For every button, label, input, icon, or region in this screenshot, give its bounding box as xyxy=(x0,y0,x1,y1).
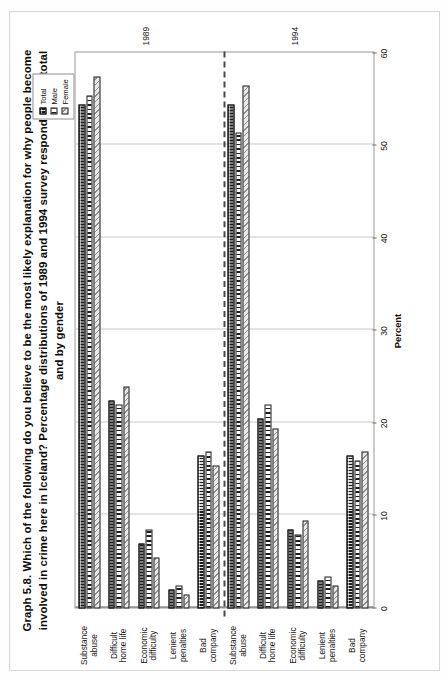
axis-title-percent: Percent xyxy=(391,53,402,608)
category-label-line1: Economic xyxy=(288,612,298,670)
figure-sheet: Graph 5.8. Which of the following do you… xyxy=(9,11,440,671)
legend-label: Male xyxy=(49,88,58,104)
bar-total xyxy=(108,400,115,608)
category-label-line2: abuse xyxy=(238,612,248,670)
category-label-line1: Difficult xyxy=(258,612,268,670)
tick-mark-20 xyxy=(372,422,376,423)
tick-mark-30 xyxy=(372,330,376,331)
tick-mark-50 xyxy=(372,145,376,146)
rotation-wrapper: Graph 5.8. Which of the following do you… xyxy=(10,12,439,670)
category-label-line1: Substance xyxy=(228,612,238,670)
category-label-line2: difficulty xyxy=(149,612,159,670)
legend-swatch-icon xyxy=(61,107,68,114)
chart-figure: Graph 5.8. Which of the following do you… xyxy=(10,12,439,670)
bar-total xyxy=(346,455,353,608)
category-label-line2: penalties xyxy=(178,612,188,670)
category-label: Lenientpenalties xyxy=(169,612,189,670)
category-label-line1: Bad xyxy=(198,612,208,670)
period-label-1989: 1989 xyxy=(140,26,150,45)
bar-male xyxy=(115,405,122,609)
category-label-line2: abuse xyxy=(89,612,99,670)
bar-total xyxy=(257,418,264,608)
bar-total xyxy=(168,590,175,609)
bar-total xyxy=(138,543,145,608)
legend-item[interactable]: Total xyxy=(37,79,47,114)
bar-total xyxy=(287,529,294,608)
axis-tick-label: 0 xyxy=(378,606,388,611)
category-label: Badcompany xyxy=(347,612,367,670)
category-label: Substanceabuse xyxy=(79,612,99,670)
category-label-line2: penalties xyxy=(327,612,337,670)
legend-swatch-icon xyxy=(50,107,57,114)
category-label-line1: Economic xyxy=(139,612,149,670)
bar-total xyxy=(317,580,324,608)
axis-tick-label: 30 xyxy=(378,326,388,336)
bar-female xyxy=(183,594,190,608)
legend-label: Total xyxy=(38,88,47,104)
category-label: Badcompany xyxy=(198,612,218,670)
bar-female xyxy=(153,557,160,608)
axis-tick-label: 50 xyxy=(378,141,388,151)
chart-legend: TotalMaleFemale xyxy=(32,73,74,119)
axis-tick-label: 40 xyxy=(378,233,388,243)
bar-total xyxy=(227,104,234,608)
category-label: Difficulthome life xyxy=(258,612,278,670)
category-label: Substanceabuse xyxy=(228,612,248,670)
bar-male xyxy=(145,529,152,608)
bar-female xyxy=(361,451,368,608)
category-label-line1: Bad xyxy=(347,612,357,670)
category-label-line1: Difficult xyxy=(109,612,119,670)
bar-female xyxy=(302,520,309,608)
category-label-line2: company xyxy=(357,612,367,670)
category-label-line1: Lenient xyxy=(169,612,179,670)
category-label: Lenientpenalties xyxy=(318,612,338,670)
bar-male xyxy=(86,95,93,608)
axis-tick-label: 20 xyxy=(378,418,388,428)
bar-female xyxy=(242,85,249,608)
category-label: Difficulthome life xyxy=(109,612,129,670)
category-label-line2: company xyxy=(208,612,218,670)
category-label-line2: difficulty xyxy=(298,612,308,670)
category-label-line2: home life xyxy=(268,612,278,670)
tick-mark-0 xyxy=(372,607,376,608)
bar-female xyxy=(93,76,100,608)
tick-mark-40 xyxy=(372,237,376,238)
period-label-1994: 1994 xyxy=(289,26,299,45)
legend-label: Female xyxy=(60,79,69,104)
bar-female xyxy=(332,585,339,608)
legend-item[interactable]: Male xyxy=(48,79,58,114)
tick-mark-10 xyxy=(372,515,376,516)
category-label: Economicdifficulty xyxy=(139,612,159,670)
page-canvas: Graph 5.8. Which of the following do you… xyxy=(0,0,447,680)
bar-male xyxy=(205,451,212,608)
axis-tick-label: 10 xyxy=(378,511,388,521)
bar-male xyxy=(354,460,361,608)
bar-female xyxy=(212,465,219,608)
legend-item[interactable]: Female xyxy=(59,79,69,114)
bar-male xyxy=(324,576,331,608)
tick-mark-60 xyxy=(372,52,376,53)
chart-title: Graph 5.8. Which of the following do you… xyxy=(18,44,67,636)
bar-total xyxy=(78,104,85,608)
legend-swatch-icon xyxy=(39,107,46,114)
bar-male xyxy=(175,585,182,608)
bar-female xyxy=(272,428,279,608)
category-label-line1: Substance xyxy=(79,612,89,670)
bar-male xyxy=(235,132,242,608)
bar-female xyxy=(123,386,130,608)
category-label-line1: Lenient xyxy=(318,612,328,670)
axis-tick-label: 60 xyxy=(378,48,388,58)
bar-male xyxy=(294,534,301,608)
bar-male xyxy=(264,405,271,609)
bar-total xyxy=(197,455,204,608)
category-label-line2: home life xyxy=(119,612,129,670)
category-label: Economicdifficulty xyxy=(288,612,308,670)
period-divider xyxy=(223,51,225,616)
